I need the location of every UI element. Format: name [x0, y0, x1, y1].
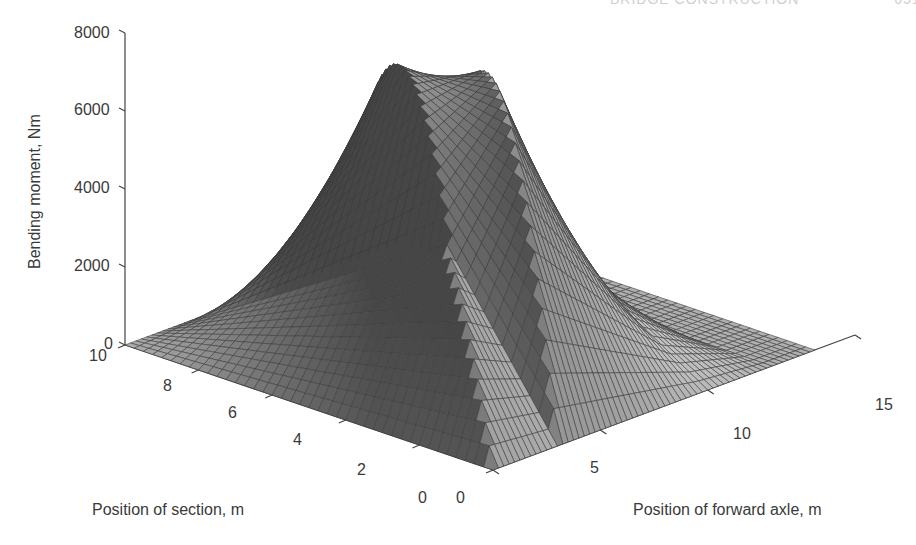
section-tick-label: 6 [228, 405, 237, 421]
axle-tick-label: 0 [456, 490, 465, 506]
section-axis-title: Position of section, m [92, 502, 244, 518]
axle-tick-label: 10 [733, 426, 751, 442]
z-tick-label: 2000 [74, 258, 110, 274]
section-tick-label: 10 [89, 348, 107, 364]
z-tick-label: 4000 [74, 180, 110, 196]
z-tick-label: 8000 [74, 25, 110, 41]
section-tick-label: 2 [357, 462, 366, 478]
surface-plot [0, 0, 916, 545]
section-tick-label: 8 [163, 378, 172, 394]
z-axis-title: Bending moment, Nm [27, 114, 43, 269]
z-tick-label: 6000 [74, 102, 110, 118]
axle-tick-label: 15 [875, 397, 893, 413]
section-tick-label: 4 [293, 432, 302, 448]
section-tick-label: 0 [418, 490, 427, 506]
axle-tick-label: 5 [590, 460, 599, 476]
axle-axis-title: Position of forward axle, m [633, 502, 822, 518]
